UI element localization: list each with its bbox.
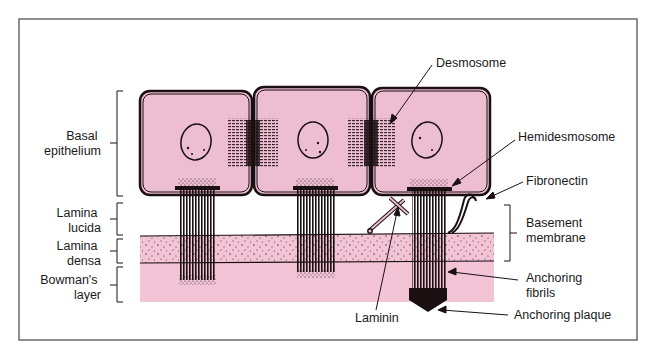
anchoring-fibrils-1 [179, 190, 216, 280]
diagram-canvas: Basal epithelium Lamina lucida Lamina de… [0, 0, 654, 356]
label-hemidesmosome: Hemidesmosome [518, 130, 615, 144]
label-desmosome: Desmosome [436, 56, 506, 70]
hemidesmosome-plaque [407, 187, 452, 191]
label-basement-membrane: Basement membrane [526, 216, 586, 245]
hemidesmosome-plaque [175, 186, 220, 190]
anchoring-fibrils-3 [412, 191, 446, 291]
label-anchoring-plaque: Anchoring plaque [514, 308, 611, 322]
anchoring-fibrils-2 [297, 190, 335, 272]
label-fibronectin: Fibronectin [526, 174, 588, 188]
hemidesmosome-plaque [293, 186, 338, 190]
label-laminin: Laminin [355, 311, 399, 325]
